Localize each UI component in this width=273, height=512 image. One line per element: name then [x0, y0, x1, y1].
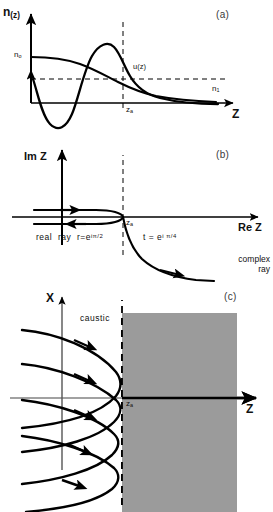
- panel-c-x-axis-label: Z: [246, 403, 253, 415]
- panel-c-ray-3: [22, 400, 118, 484]
- panel-b-y-axis-label: Im Z: [24, 151, 47, 162]
- panel-c-caustic-label: caustic: [80, 314, 110, 323]
- panel-a-n0-sub: o: [18, 53, 21, 59]
- panel-a-y-axis-label-sub: (z): [10, 11, 20, 20]
- panel-a-za-label: za: [126, 106, 133, 115]
- panel-b-t-label: t = ei π/4: [143, 233, 177, 242]
- panel-a-uz-label: u(z): [133, 63, 146, 71]
- panel-c-y-axis-label: X: [46, 292, 54, 304]
- panel-a-tag: (a): [216, 10, 229, 20]
- panel-b-real-ray-label: real ray r=eiπ/2: [36, 233, 103, 242]
- panel-a-n1-label: n1: [212, 85, 219, 94]
- complex-ray-line-1: complex: [238, 254, 270, 264]
- panel-a-x-axis-label: Z: [232, 108, 239, 120]
- panel-b-tag: (b): [216, 150, 229, 160]
- panel-c-shadow-zone: [122, 313, 237, 512]
- panel-c-tag: (c): [224, 292, 237, 302]
- panel-a-n0-label: no: [14, 51, 21, 60]
- panel-b-za-label: za: [126, 219, 133, 228]
- panel-c-ray-arrow-4: [68, 444, 88, 453]
- panel-b-complex-ray-label: complexray: [212, 255, 270, 275]
- panel-b-za-sub: a: [130, 221, 133, 227]
- panel-c-za-label: za: [126, 400, 133, 409]
- complex-ray-line-2: ray: [258, 264, 270, 274]
- panel-a-n1-sub: 1: [216, 87, 219, 93]
- panel-c-za-sub: a: [130, 402, 133, 408]
- panel-b-t-exponent: i π/4: [162, 233, 177, 239]
- panel-c-ray-arrow-5: [62, 480, 82, 487]
- panel-b-real-ray-exponent: iπ/2: [91, 233, 103, 239]
- panel-c-ray-1: [22, 330, 121, 428]
- panel-a-y-axis-label: n(z): [3, 6, 20, 20]
- panel-b-contour-upper: [34, 210, 123, 217]
- figure-container: n(z) (a) no n1 u(z) za Z Im Z (b) za rea…: [0, 0, 273, 512]
- panel-a-za-sub: a: [130, 108, 133, 114]
- panel-b-x-axis-label: Re Z: [238, 222, 262, 233]
